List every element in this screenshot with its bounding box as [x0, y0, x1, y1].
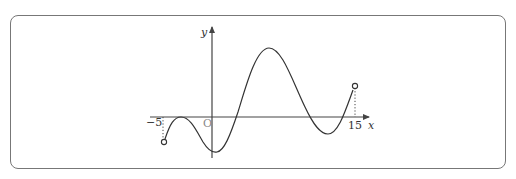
- right-open-endpoint: [352, 83, 357, 88]
- function-curve: [165, 48, 353, 152]
- y-axis-label: y: [200, 26, 208, 39]
- left-open-endpoint: [161, 139, 166, 144]
- tick-label-minus5: −5: [146, 116, 162, 129]
- tick-label-15: 15: [348, 119, 362, 132]
- origin-label: O: [203, 117, 212, 130]
- function-graph: −5 O 15 x y: [0, 0, 516, 179]
- x-axis-label: x: [368, 119, 375, 132]
